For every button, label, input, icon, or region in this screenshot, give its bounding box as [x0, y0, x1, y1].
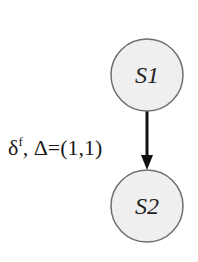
edge-label-symbol: δ — [8, 135, 18, 160]
edge-label-rest: , Δ=(1,1) — [23, 135, 103, 160]
node-s1[interactable]: S1 — [111, 39, 183, 111]
diagram-canvas: S1 S2 δf, Δ=(1,1) — [0, 0, 198, 262]
state-diagram: S1 S2 δf, Δ=(1,1) — [0, 0, 198, 262]
edge-label: δf, Δ=(1,1) — [8, 134, 102, 160]
edge-s1-to-s2 — [141, 111, 153, 170]
arrowhead-icon — [141, 155, 153, 170]
node-s1-label: S1 — [135, 62, 159, 88]
node-s2[interactable]: S2 — [111, 170, 183, 242]
node-s2-label: S2 — [135, 193, 159, 219]
